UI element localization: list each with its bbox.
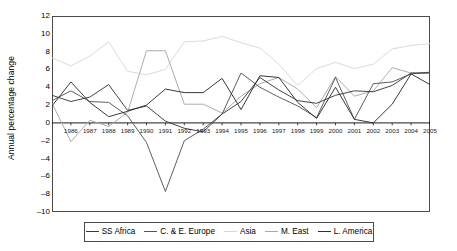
y-tick-neg2: –2 — [24, 137, 50, 145]
legend-item-ss-africa[interactable]: SS Africa — [86, 228, 136, 236]
y-tick-4: 4 — [24, 83, 50, 91]
x-tick-1994: 1994 — [215, 128, 229, 134]
x-axis-tick-labels: 1986198719881989199019911992199319941995… — [52, 128, 430, 140]
y-tick-10: 10 — [24, 30, 50, 38]
x-tick-1998: 1998 — [291, 128, 305, 134]
x-tick-1997: 1997 — [272, 128, 286, 134]
legend-swatch-m-east — [265, 231, 278, 232]
legend-item-l-america[interactable]: L. America — [318, 228, 373, 236]
x-tick-2001: 2001 — [348, 128, 362, 134]
x-tick-1993: 1993 — [196, 128, 210, 134]
x-tick-1986: 1986 — [64, 128, 78, 134]
legend-label-c-e-europe: C. & E. Europe — [160, 228, 215, 236]
x-tick-1991: 1991 — [159, 128, 173, 134]
chart-legend: SS AfricaC. & E. EuropeAsiaM. EastL. Ame… — [84, 222, 374, 242]
legend-label-ss-africa: SS Africa — [102, 228, 136, 236]
y-tick-8: 8 — [24, 48, 50, 56]
x-tick-2003: 2003 — [385, 128, 399, 134]
y-tick-neg8: –8 — [24, 190, 50, 198]
y-tick-neg6: –6 — [24, 172, 50, 180]
legend-item-asia[interactable]: Asia — [224, 228, 256, 236]
y-axis-title: Annual percentage change — [2, 18, 20, 198]
x-tick-1995: 1995 — [234, 128, 248, 134]
x-tick-2005: 2005 — [423, 128, 437, 134]
series-line-l-america — [52, 74, 430, 123]
legend-item-m-east[interactable]: M. East — [265, 228, 309, 236]
x-tick-1987: 1987 — [83, 128, 97, 134]
x-tick-1988: 1988 — [102, 128, 116, 134]
y-axis-title-text: Annual percentage change — [6, 56, 16, 160]
legend-swatch-ss-africa — [86, 231, 99, 232]
x-tick-1990: 1990 — [140, 128, 154, 134]
x-tick-1996: 1996 — [253, 128, 267, 134]
plot-area — [52, 16, 430, 212]
y-tick-6: 6 — [24, 65, 50, 73]
series-line-asia — [52, 36, 430, 85]
y-tick-neg4: –4 — [24, 155, 50, 163]
chart-figure: Annual percentage change 121086420–2–4–6… — [0, 0, 457, 251]
y-tick-2: 2 — [24, 101, 50, 109]
x-tick-1992: 1992 — [177, 128, 191, 134]
x-tick-2004: 2004 — [404, 128, 418, 134]
y-tick-0: 0 — [24, 119, 50, 127]
x-tick-1999: 1999 — [310, 128, 324, 134]
legend-swatch-c-e-europe — [144, 231, 157, 232]
line-chart-canvas — [52, 16, 430, 212]
legend-label-asia: Asia — [240, 228, 256, 236]
legend-label-m-east: M. East — [281, 228, 309, 236]
y-tick-neg10: –10 — [24, 208, 50, 216]
x-tick-2000: 2000 — [329, 128, 343, 134]
x-tick-2002: 2002 — [366, 128, 380, 134]
legend-item-c-e-europe[interactable]: C. & E. Europe — [144, 228, 215, 236]
legend-swatch-l-america — [318, 231, 331, 232]
x-tick-1989: 1989 — [121, 128, 135, 134]
legend-label-l-america: L. America — [334, 228, 373, 236]
y-tick-12: 12 — [24, 12, 50, 20]
legend-swatch-asia — [224, 231, 237, 232]
y-axis-tick-labels: 121086420–2–4–6–8–10 — [20, 16, 50, 212]
